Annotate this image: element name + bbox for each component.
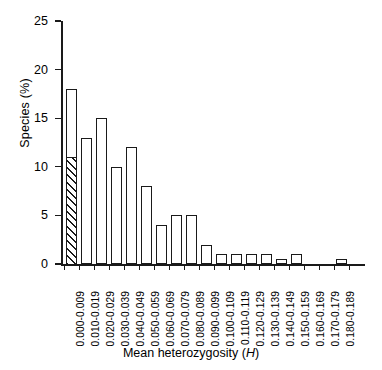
bar bbox=[96, 118, 108, 264]
x-axis-title-suffix: ) bbox=[255, 346, 259, 360]
x-axis-tick bbox=[139, 265, 140, 270]
x-axis-tick-label: 0.180-0.189 bbox=[346, 291, 356, 346]
bar-hatched-segment bbox=[66, 157, 78, 264]
x-axis-tick bbox=[184, 265, 185, 270]
y-axis-tick bbox=[55, 69, 61, 70]
y-axis-line bbox=[61, 21, 63, 264]
x-axis-tick bbox=[259, 265, 260, 270]
y-axis-tick bbox=[55, 166, 61, 167]
x-axis-tick-label: 0.070-0.079 bbox=[181, 291, 191, 346]
histogram-figure: Species (%) 0510152025 0.000-0.0090.010-… bbox=[0, 0, 382, 370]
x-axis-tick-label: 0.170-0.179 bbox=[331, 291, 341, 346]
bar bbox=[216, 254, 228, 264]
x-axis-tick bbox=[244, 265, 245, 270]
bar bbox=[276, 259, 288, 264]
x-axis-tick bbox=[274, 265, 275, 270]
bar bbox=[81, 138, 93, 264]
x-axis-tick bbox=[199, 265, 200, 270]
x-axis-tick-label: 0.000-0.009 bbox=[76, 291, 86, 346]
x-axis-tick bbox=[169, 265, 170, 270]
x-axis-title: Mean heterozygosity (H) bbox=[0, 346, 382, 360]
x-axis-tick-label: 0.010-0.019 bbox=[91, 291, 101, 346]
bar bbox=[261, 254, 273, 264]
x-axis-tick-label: 0.020-0.029 bbox=[106, 291, 116, 346]
bar bbox=[246, 254, 258, 264]
x-axis-title-symbol: H bbox=[246, 346, 255, 360]
x-axis-tick-label: 0.040-0.049 bbox=[136, 291, 146, 346]
x-axis-tick bbox=[64, 265, 65, 270]
y-axis-tick-label: 10 bbox=[8, 161, 48, 174]
bar bbox=[186, 215, 198, 264]
y-axis-tick-label: 20 bbox=[8, 64, 48, 77]
x-axis-tick bbox=[289, 265, 290, 270]
x-axis-tick-label: 0.100-0.109 bbox=[226, 291, 236, 346]
x-axis-tick-label: 0.140-0.149 bbox=[286, 291, 296, 346]
bar bbox=[141, 186, 153, 264]
x-axis-tick-label: 0.130-0.139 bbox=[271, 291, 281, 346]
bar bbox=[156, 225, 168, 264]
x-axis-tick-label: 0.090-0.099 bbox=[211, 291, 221, 346]
y-axis-tick bbox=[55, 20, 61, 21]
bar bbox=[336, 259, 348, 264]
y-axis-tick bbox=[55, 263, 61, 264]
bar bbox=[171, 215, 183, 264]
x-axis-tick bbox=[304, 265, 305, 270]
y-axis-tick-label: 25 bbox=[8, 15, 48, 28]
bar bbox=[231, 254, 243, 264]
x-axis-tick bbox=[334, 265, 335, 270]
x-axis-tick bbox=[109, 265, 110, 270]
x-axis-tick-label: 0.060-0.069 bbox=[166, 291, 176, 346]
x-axis-tick-label: 0.120-0.129 bbox=[256, 291, 266, 346]
x-axis-tick-label: 0.160-0.169 bbox=[316, 291, 326, 346]
plot-area: 0.000-0.0090.010-0.0190.020-0.0290.030-0… bbox=[61, 21, 365, 264]
x-axis-tick bbox=[154, 265, 155, 270]
y-axis-tick-label: 0 bbox=[8, 258, 48, 271]
y-axis-tick-label: 5 bbox=[8, 209, 48, 222]
x-axis-tick bbox=[124, 265, 125, 270]
x-axis-tick bbox=[349, 265, 350, 270]
bar bbox=[111, 167, 123, 264]
bar bbox=[291, 254, 303, 264]
x-axis-title-prefix: Mean heterozygosity ( bbox=[123, 346, 246, 360]
x-axis-tick-label: 0.080-0.089 bbox=[196, 291, 206, 346]
x-axis-tick bbox=[229, 265, 230, 270]
y-axis-tick-label: 15 bbox=[8, 112, 48, 125]
y-axis-tick bbox=[55, 215, 61, 216]
x-axis-tick-label: 0.030-0.039 bbox=[121, 291, 131, 346]
y-axis-tick bbox=[55, 118, 61, 119]
x-axis-tick bbox=[319, 265, 320, 270]
bar bbox=[201, 245, 213, 264]
x-axis-tick-label: 0.050-0.059 bbox=[151, 291, 161, 346]
x-axis-tick-label: 0.150-0.159 bbox=[301, 291, 311, 346]
x-axis-tick-label: 0.110-0.119 bbox=[241, 291, 251, 345]
x-axis-tick bbox=[94, 265, 95, 270]
x-axis-tick bbox=[214, 265, 215, 270]
bar bbox=[126, 147, 138, 264]
x-axis-tick bbox=[79, 265, 80, 270]
